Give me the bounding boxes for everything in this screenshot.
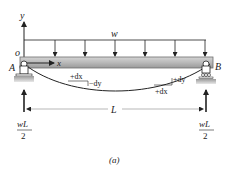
reaction-left: wL 2 (17, 90, 32, 141)
span-dimension: L (27, 104, 203, 115)
slope-triangle-right: +dy +dx (154, 75, 186, 96)
slope-triangle-left: +dx −dy (68, 72, 102, 88)
dx-label-right: +dx (155, 87, 168, 96)
ground-icon (14, 76, 34, 82)
reaction-right-numerator: wL (199, 119, 210, 129)
reaction-right: wL 2 (199, 90, 214, 141)
origin-label: o (15, 47, 20, 58)
beam-diagram: y w o x +dx −dy +dy +dx (0, 0, 233, 171)
span-label: L (110, 104, 117, 115)
reaction-left-denominator: 2 (21, 131, 26, 141)
dx-label-left: +dx (70, 72, 83, 81)
support-label-left: A (8, 62, 16, 73)
y-axis-label: y (19, 10, 25, 21)
dy-label-left: −dy (89, 79, 102, 88)
support-label-right: B (215, 61, 221, 72)
dy-label-right: +dy (173, 75, 186, 84)
distributed-load: w (24, 28, 206, 56)
reaction-left-numerator: wL (17, 119, 28, 129)
ground-icon (196, 79, 216, 84)
x-axis-label: x (56, 58, 61, 68)
figure-caption: (a) (109, 155, 120, 165)
load-label: w (111, 28, 118, 39)
reaction-right-denominator: 2 (203, 131, 208, 141)
